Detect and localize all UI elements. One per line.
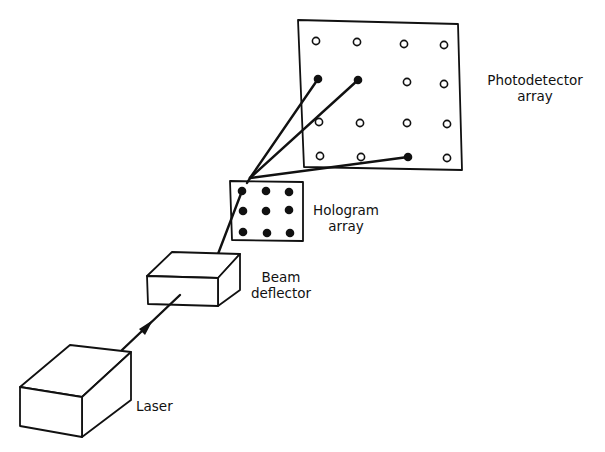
hologram-label-line-2: array <box>306 218 386 234</box>
beam-deflector-label-line-1: Beam <box>242 269 320 285</box>
hologram-element <box>286 229 295 238</box>
laser <box>20 345 131 437</box>
beam-deflector-label: Beam deflector <box>242 269 320 301</box>
hologram-element <box>263 229 272 238</box>
hologram-element <box>285 206 294 215</box>
laser-label: Laser <box>136 398 186 414</box>
hologram-element <box>285 188 294 197</box>
optical-system-diagram <box>0 0 605 452</box>
beam-deflector <box>147 252 240 306</box>
photodetector-label: Photodetector array <box>470 72 600 104</box>
hologram-element <box>262 187 271 196</box>
hologram-array <box>230 181 303 241</box>
hologram-element <box>239 207 248 216</box>
hologram-element <box>262 207 271 216</box>
photodetector-array <box>298 20 462 170</box>
hologram-label-line-1: Hologram <box>306 202 386 218</box>
hologram-element <box>239 228 248 237</box>
laser-label-text: Laser <box>136 398 186 414</box>
photodetector-label-line-1: Photodetector <box>470 72 600 88</box>
deflector-front-face <box>147 276 218 306</box>
photodetector-panel <box>298 20 462 170</box>
hologram-label: Hologram array <box>306 202 386 234</box>
photodetector-label-line-2: array <box>470 88 600 104</box>
beam-deflector-label-line-2: deflector <box>242 285 320 301</box>
